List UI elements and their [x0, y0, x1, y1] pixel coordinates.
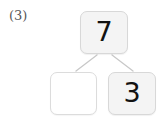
- part-right-value: 3: [123, 79, 140, 106]
- number-bond-exercise: (3) 7 3: [0, 0, 166, 125]
- part-box-right[interactable]: 3: [108, 72, 156, 115]
- connector-line-left: [76, 55, 97, 71]
- part-box-left[interactable]: [50, 72, 97, 115]
- whole-value: 7: [95, 18, 112, 45]
- whole-box[interactable]: 7: [80, 11, 128, 54]
- connector-line-right: [112, 55, 133, 71]
